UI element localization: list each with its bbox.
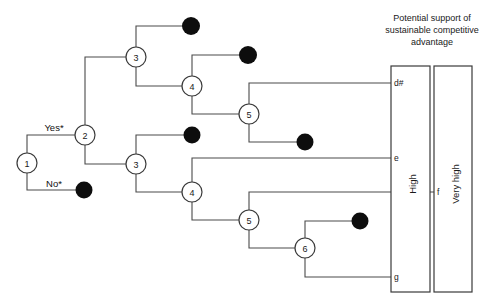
decision-node-group: 1 2 3 4 5 3 4 [17, 47, 315, 258]
terminal-node-c [297, 134, 314, 151]
branch-label-yes: Yes* [44, 122, 63, 133]
terminal-node-group [76, 17, 369, 230]
figure-title-line-1: Potential support of [393, 13, 471, 23]
outcome-box-very-high-label: Very high [450, 164, 461, 204]
edge-n3u-to-terminal-a [136, 26, 183, 47]
edge-n5u-to-outcome-dsharp [249, 83, 391, 104]
edge-n3l-to-n4l [136, 174, 182, 192]
decision-node-5-lower-label: 5 [246, 216, 251, 226]
decision-node-4-lower-label: 4 [189, 188, 194, 198]
edge-n6-to-terminal-e [305, 221, 352, 238]
tick-label-e: e [394, 153, 399, 163]
edge-n5u-to-terminal-c [249, 124, 297, 142]
edge-n6-to-outcome-g [305, 258, 391, 277]
decision-node-4-lower[interactable]: 4 [182, 182, 202, 202]
decision-node-6[interactable]: 6 [295, 238, 315, 258]
decision-node-1[interactable]: 1 [17, 153, 37, 173]
decision-node-5-lower[interactable]: 5 [239, 210, 259, 230]
edge-n4u-to-terminal-b [192, 55, 240, 76]
decision-node-1-label: 1 [24, 159, 29, 169]
decision-node-4-upper-label: 4 [189, 82, 194, 92]
tick-label-dsharp: d# [394, 78, 404, 88]
decision-node-5-upper[interactable]: 5 [239, 104, 259, 124]
decision-node-2-label: 2 [82, 131, 87, 141]
edge-n1-to-n2 [27, 135, 75, 153]
edge-group [27, 26, 434, 277]
tick-label-g: g [394, 272, 399, 282]
decision-node-3-lower[interactable]: 3 [126, 154, 146, 174]
edge-n5l-to-n6 [249, 230, 295, 248]
outcome-box-group: High Very high [391, 66, 472, 292]
diagram-canvas: High Very high d# e g f 1 [0, 0, 495, 308]
edge-n4u-to-n5u [192, 96, 239, 114]
terminal-node-a [182, 17, 200, 35]
edge-n4l-to-n5l [192, 202, 239, 220]
figure-title-line-3: advantage [411, 37, 453, 47]
decision-node-2[interactable]: 2 [75, 125, 95, 145]
edge-n3l-to-terminal-d [136, 135, 184, 154]
outcome-box-high-label: High [407, 174, 418, 194]
decision-node-3-lower-label: 3 [133, 160, 138, 170]
terminal-node-b [239, 46, 257, 64]
decision-node-3-upper[interactable]: 3 [126, 47, 146, 67]
decision-tree-diagram: High Very high d# e g f 1 [0, 0, 495, 308]
decision-node-6-label: 6 [302, 244, 307, 254]
figure-title-line-2: sustainable competitive [385, 25, 479, 35]
branch-label-no: No* [46, 178, 62, 189]
terminal-node-no [76, 182, 93, 199]
edge-n4l-to-outcome-e [192, 158, 391, 182]
branch-label-group: Yes* No* [44, 122, 63, 189]
terminal-node-e [352, 213, 369, 230]
decision-node-4-upper[interactable]: 4 [182, 76, 202, 96]
decision-node-3-upper-label: 3 [133, 53, 138, 63]
edge-n2-to-n3-upper [85, 57, 126, 125]
terminal-node-d [184, 127, 201, 144]
decision-node-5-upper-label: 5 [246, 110, 251, 120]
edge-n3u-to-n4u [136, 67, 182, 86]
edge-n2-to-n3-lower [85, 145, 126, 164]
figure-title: Potential support of sustainable competi… [385, 13, 479, 47]
